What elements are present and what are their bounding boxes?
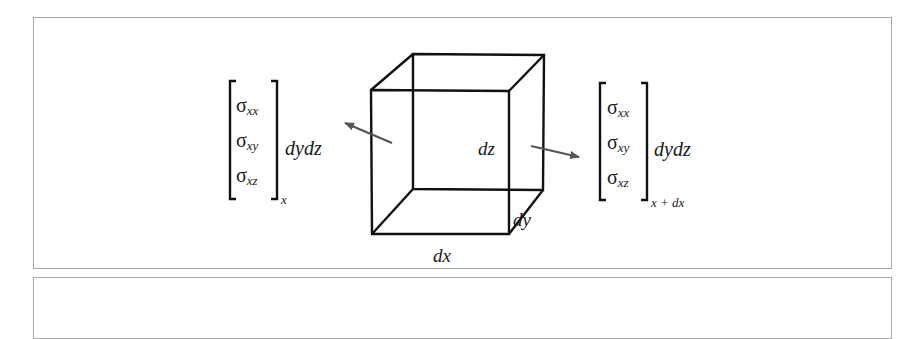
label-dx: dx (433, 245, 452, 266)
right-sigma-xy: σxy (607, 131, 630, 155)
label-dy: dy (513, 209, 532, 230)
right-stress-vector: σxx σxy σxz x + dx dydz (600, 83, 691, 210)
left-bracket-close (271, 81, 277, 199)
right-sigma-xz: σxz (607, 166, 629, 190)
left-stress-vector: σxx σxy σxz x dydz (230, 81, 322, 207)
right-area-factor: dydz (654, 138, 691, 161)
right-bracket-open (600, 83, 606, 200)
cube-edge-top-right (509, 55, 544, 91)
label-dz: dz (478, 138, 496, 159)
left-evaluated-at: x (280, 192, 287, 207)
right-sigma-xx: σxx (607, 96, 630, 120)
left-sigma-xy: σxy (236, 129, 259, 153)
cube-edge-bottom-left (372, 189, 413, 234)
left-area-factor: dydz (285, 137, 322, 160)
left-sigma-xz: σxz (236, 164, 258, 188)
left-sigma-xx: σxx (236, 94, 259, 118)
right-bracket-close (641, 83, 647, 200)
right-traction-arrow (531, 146, 579, 157)
cube-edge-top-left (371, 54, 413, 90)
cube-element (371, 54, 544, 234)
right-evaluated-at: x + dx (650, 195, 685, 210)
left-traction-arrow (345, 123, 392, 143)
